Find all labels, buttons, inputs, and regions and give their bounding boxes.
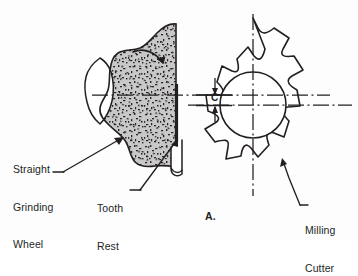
label-tooth-rest: Tooth Rest bbox=[97, 177, 123, 276]
label-milling-cutter: Milling Cutter bbox=[305, 199, 335, 276]
label-straight-grinding-wheel: Straight Grinding Wheel bbox=[13, 138, 54, 276]
label-tooth-rest-line1: Tooth bbox=[97, 202, 123, 215]
label-milling-cutter-line2: Cutter bbox=[305, 262, 335, 275]
label-grinding-wheel-line3: Wheel bbox=[13, 238, 54, 251]
label-grinding-wheel-line1: Straight bbox=[13, 163, 54, 176]
grinding-wheel-leader bbox=[53, 137, 124, 172]
label-milling-cutter-line1: Milling bbox=[305, 224, 335, 237]
figure-caption: A. bbox=[205, 210, 216, 223]
label-grinding-wheel-line2: Grinding bbox=[13, 201, 54, 214]
label-dimension-c: C bbox=[211, 92, 218, 105]
milling-cutter bbox=[205, 18, 303, 159]
milling-cutter-leader bbox=[280, 158, 308, 205]
label-tooth-rest-line2: Rest bbox=[97, 240, 123, 253]
